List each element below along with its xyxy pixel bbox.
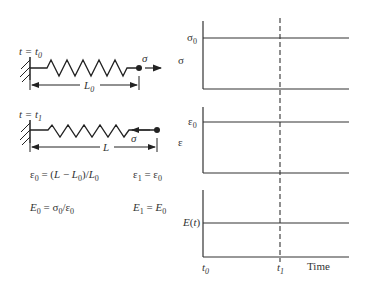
- load-point: [136, 65, 142, 71]
- strain-axis-label: ε: [178, 136, 183, 148]
- length-label-L0: L0: [83, 79, 94, 94]
- force-label-t0: σ: [142, 52, 148, 64]
- stress-level-label: σ0: [187, 31, 197, 46]
- state-t0-diagram: t = t0 σ L0: [19, 45, 161, 94]
- xtick-t1: t1: [277, 261, 284, 276]
- modulus-equation-0: E0 = σ0/ε0: [29, 201, 74, 216]
- stress-axis-label: σ: [178, 54, 184, 66]
- modulus-plot: [203, 190, 349, 257]
- stress-relaxation-diagram: t = t0 σ L0 t = t1 σ L ε0 =: [0, 0, 367, 285]
- strain-equation-0: ε0 = (L − L0)/L0: [30, 168, 99, 183]
- spring-icon: [30, 125, 157, 137]
- strain-level-label: ε0: [188, 115, 197, 130]
- modulus-equation-1: E1 = E0: [132, 201, 166, 216]
- strain-equation-1: ε1 = ε0: [133, 168, 162, 183]
- spring-icon: [30, 60, 139, 76]
- state-t1-diagram: t = t1 σ L: [19, 108, 160, 153]
- force-label-t1: σ: [131, 132, 137, 144]
- strain-plot: [203, 107, 349, 173]
- length-label-L: L: [102, 141, 109, 153]
- load-point: [154, 127, 160, 133]
- modulus-level-label: E(t): [182, 216, 200, 229]
- stress-plot: [203, 21, 349, 89]
- x-axis-label: Time: [307, 260, 330, 272]
- equations: ε0 = (L − L0)/L0 ε1 = ε0 E0 = σ0/ε0 E1 =…: [29, 168, 166, 216]
- xtick-t0: t0: [202, 261, 209, 276]
